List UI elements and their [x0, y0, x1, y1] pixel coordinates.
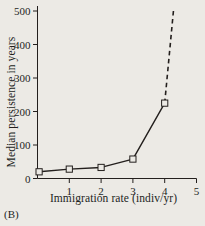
- chart-series: [39, 9, 174, 171]
- chart-markers: [36, 100, 168, 175]
- y-axis-label: Median persistence in years: [5, 27, 17, 177]
- data-point-marker: [66, 166, 72, 172]
- data-point-marker: [36, 169, 42, 175]
- chart-axes: [38, 6, 197, 179]
- y-tick-label: 0: [25, 173, 31, 185]
- series-line-solid: [39, 103, 165, 172]
- data-point-marker: [162, 100, 168, 106]
- x-axis-label: Immigration rate (indiv/yr): [0, 192, 205, 204]
- figure-panel-b: 010020030040050012345 Immigration rate (…: [0, 0, 205, 226]
- data-point-marker: [98, 164, 104, 170]
- series-line-dashed: [165, 9, 174, 103]
- panel-label: (B): [4, 208, 19, 220]
- y-tick-label: 500: [14, 5, 31, 17]
- chart-tick-labels: 010020030040050012345: [14, 5, 200, 197]
- chart-ticks: [33, 11, 197, 183]
- data-point-marker: [130, 156, 136, 162]
